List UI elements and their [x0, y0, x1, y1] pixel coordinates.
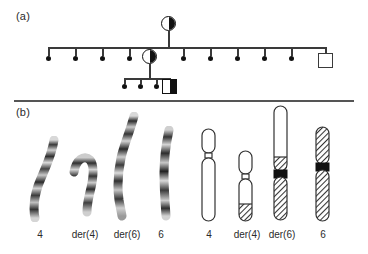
generation-ii-carrier-circle: [142, 49, 157, 64]
generation-iii-proband-square: [162, 79, 177, 94]
ideogram-chromosome-der6: [270, 104, 292, 222]
descent-line-gen2: [149, 64, 151, 78]
figure-root: (a): [0, 0, 368, 254]
sib-dot: [73, 56, 78, 61]
gbanded-label-der4: der(4): [62, 229, 108, 240]
generation-i-proposita-circle: [161, 16, 176, 31]
sib-dot: [235, 56, 240, 61]
gbanded-label-der6: der(6): [104, 229, 150, 240]
gbanded-chromosome-der6: [110, 112, 144, 222]
generation-ii-unaffected-male-square: [318, 53, 333, 68]
sib-dot: [100, 56, 105, 61]
gbanded-chromosome-6: [152, 126, 182, 222]
sib-drop: [210, 47, 212, 56]
panel-label-b: (b): [16, 106, 30, 118]
panel-label-a: (a): [16, 10, 30, 22]
sib-drop: [264, 47, 266, 56]
ideogram-label-6: 6: [310, 229, 336, 240]
ideogram-chromosome-6: [312, 126, 334, 222]
sib-drop: [102, 47, 104, 56]
pedigree-panel: (a): [0, 0, 368, 100]
sib-dot: [154, 84, 159, 89]
sib-drop: [48, 47, 50, 56]
sib-dot: [289, 56, 294, 61]
gbanded-chromosome-4: [28, 136, 62, 222]
gbanded-chromosome-der4: [66, 136, 104, 222]
ideogram-label-4: 4: [196, 229, 222, 240]
gbanded-label-4: 4: [26, 229, 54, 240]
sib-dot: [127, 56, 132, 61]
chromosome-panel: (b): [0, 100, 368, 254]
gbanded-label-6: 6: [148, 229, 174, 240]
sib-dot: [138, 84, 143, 89]
sib-drop: [291, 47, 293, 56]
sib-dot: [262, 56, 267, 61]
ideogram-chromosome-der4: [235, 150, 257, 222]
sib-drop: [129, 47, 131, 56]
sib-drop: [237, 47, 239, 56]
ideogram-chromosome-4: [198, 128, 220, 222]
descent-line-gen1: [168, 31, 170, 48]
sib-drop: [75, 47, 77, 56]
sib-dot: [122, 84, 127, 89]
sib-dot: [208, 56, 213, 61]
sib-dot: [46, 56, 51, 61]
sib-dot: [181, 56, 186, 61]
sib-drop: [183, 47, 185, 56]
ideogram-label-der6: der(6): [259, 229, 305, 240]
sibship-line-gen2: [48, 47, 326, 49]
